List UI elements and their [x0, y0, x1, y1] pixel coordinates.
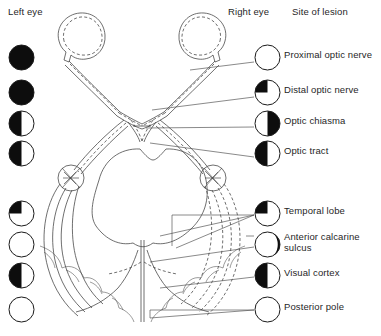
field-defect-left-anterior-calcarine-sulcus	[8, 231, 35, 258]
right-occipital-gyri	[151, 246, 245, 322]
lesion-label-proximal-optic-nerve: Proximal optic nerve	[284, 50, 372, 61]
field-defect-left-visual-cortex	[8, 262, 35, 289]
field-defect-right-optic-chiasma	[254, 110, 281, 137]
field-defect-right-temporal-lobe	[254, 200, 281, 227]
field-defect-left-temporal-lobe	[8, 200, 35, 227]
field-defect-left-optic-chiasma	[8, 110, 35, 137]
lesion-label-optic-tract: Optic tract	[284, 146, 328, 157]
field-defect-left-posterior-pole	[8, 296, 35, 323]
lesion-label-visual-cortex: Visual cortex	[284, 268, 340, 279]
field-defect-left-optic-tract	[8, 140, 35, 167]
left-optic-radiation	[44, 184, 103, 316]
lesion-label-anterior-calcarine-sulcus: Anterior calcarine sulcus	[284, 232, 360, 253]
lesion-label-optic-chiasma: Optic chiasma	[284, 116, 346, 127]
header-left-eye: Left eye	[8, 6, 43, 17]
lesion-label-distal-optic-nerve: Distal optic nerve	[284, 85, 359, 96]
field-defect-left-distal-optic-nerve	[8, 79, 35, 106]
left-eye-globe	[58, 13, 105, 62]
right-eye-globe	[179, 13, 226, 62]
lesion-label-temporal-lobe: Temporal lobe	[284, 206, 345, 217]
field-defect-right-anterior-calcarine-sulcus	[254, 231, 281, 258]
visual-pathway-diagram: Left eye Right eye Site of lesion Proxim…	[0, 0, 381, 336]
field-defect-right-optic-tract	[254, 140, 281, 167]
field-defect-right-visual-cortex	[254, 262, 281, 289]
header-right-eye: Right eye	[228, 6, 269, 17]
header-site-of-lesion: Site of lesion	[292, 6, 348, 17]
field-defect-right-distal-optic-nerve	[254, 79, 281, 106]
left-optic-nerve	[65, 61, 120, 116]
midbrain-outline	[92, 149, 207, 247]
right-optic-nerve	[164, 61, 219, 116]
field-defect-right-proximal-optic-nerve	[254, 44, 281, 71]
lesion-label-posterior-pole: Posterior pole	[284, 302, 344, 313]
field-defect-left-proximal-optic-nerve	[8, 44, 35, 71]
optic-tracts	[74, 120, 210, 174]
field-defect-right-posterior-pole	[254, 296, 281, 323]
optic-chiasm	[117, 112, 167, 142]
